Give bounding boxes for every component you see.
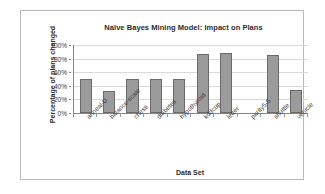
y-axis-tick-mark: [69, 45, 71, 46]
x-axis-tick-labels: anneal-Ubalance-scalechessdiabeteshypoth…: [73, 115, 307, 163]
bar-slot: [285, 45, 308, 113]
chart-title: Naïve Bayes Mining Model: Impact on Plan…: [61, 23, 306, 32]
y-axis-tick-mark: [69, 99, 71, 100]
y-axis-tick-mark: [69, 72, 71, 73]
y-axis-tick-mark: [69, 59, 71, 60]
y-axis-tick-label: 40%: [54, 82, 67, 89]
figure-frame: Naïve Bayes Mining Model: Impact on Plan…: [20, 10, 304, 180]
bar-slot: [144, 45, 167, 113]
x-axis-title: Data Set: [73, 169, 307, 176]
x-axis-tick-mark: [307, 114, 308, 117]
bar-letter[interactable]: [220, 53, 232, 113]
y-axis-tick-label: 0%: [58, 110, 67, 117]
y-axis-tick-label: 100%: [50, 42, 67, 49]
y-axis-tick-label: 60%: [54, 69, 67, 76]
y-axis-tick-mark: [69, 86, 71, 87]
bar-anneal-U[interactable]: [80, 79, 92, 113]
chart-screenshot: Naïve Bayes Mining Model: Impact on Plan…: [0, 0, 325, 194]
y-axis-tick-label: 20%: [54, 96, 67, 103]
bar-slot: [238, 45, 261, 113]
bar-slot: [74, 45, 97, 113]
y-axis-tick-label: 80%: [54, 55, 67, 62]
y-axis-tick-labels: 0%20%40%60%80%100%: [21, 45, 71, 113]
y-axis-tick-mark: [69, 113, 71, 114]
